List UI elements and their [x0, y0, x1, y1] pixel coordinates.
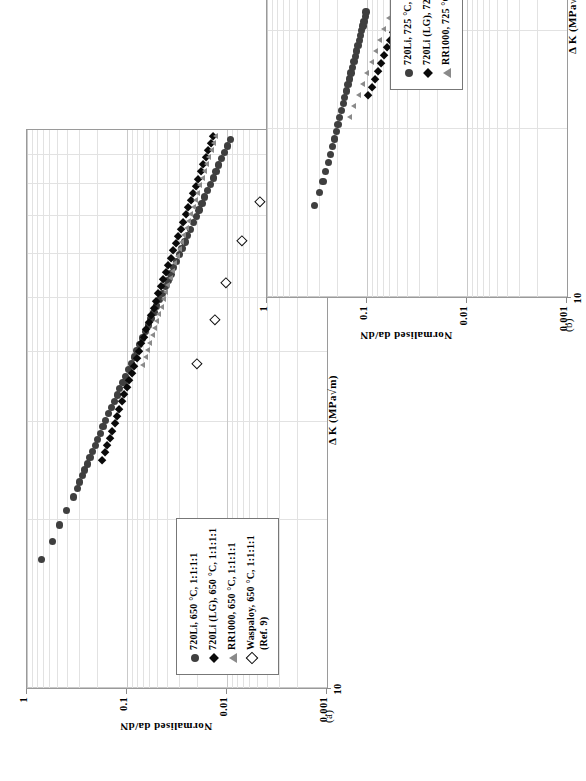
legend-item-label: 720Li, 725 °C, 1:1:1:1 [403, 0, 414, 65]
grid-line-horizontal [127, 130, 128, 688]
legend-item: 720Li, 650 °C, 1:1:1:1 [189, 528, 201, 666]
grid-line-horizontal [489, 0, 490, 297]
grid-line-horizontal [137, 130, 138, 688]
data-point [373, 48, 378, 54]
data-point [191, 358, 203, 370]
grid-line-horizontal [49, 130, 50, 688]
grid-line-horizontal [157, 130, 158, 688]
legend-item-text: 720Li, 725 °C, 1:1:1:1 [403, 0, 414, 65]
legend-item-label: RR1000, 650 °C, 1:1:1:1 [227, 542, 238, 650]
legend-triangle-icon [441, 65, 453, 81]
grid-line-horizontal [283, 0, 284, 297]
data-point [215, 161, 222, 168]
data-point [333, 128, 340, 135]
data-point [76, 478, 83, 485]
data-point [70, 493, 77, 500]
y-axis-tick-mark [366, 298, 367, 303]
data-point [145, 347, 150, 353]
data-point [336, 114, 343, 121]
legend-item-text: Waspaloy, 650 °C, 1:1:1:1(Ref. 9) [246, 535, 269, 650]
data-point [380, 51, 388, 59]
data-point [63, 507, 70, 514]
data-point [38, 556, 45, 563]
legend-marker-shape [246, 652, 259, 665]
data-point [322, 168, 329, 175]
data-point [170, 268, 175, 274]
data-point [207, 181, 214, 188]
data-point [143, 354, 148, 360]
data-point [201, 193, 208, 200]
legend-marker-shape [405, 69, 413, 77]
data-point [49, 538, 56, 545]
chart-b-legend: 720Li, 725 °C, 1:1:1:1720Li (LG), 725 °C… [390, 0, 463, 90]
grid-line-horizontal [472, 0, 473, 297]
data-point [364, 70, 369, 76]
data-point [338, 107, 345, 114]
grid-line-horizontal [167, 130, 168, 688]
chart-b-x-axis-title: Δ K (MPa√m) [566, 0, 578, 298]
y-axis-tick-mark [26, 689, 27, 694]
data-point [311, 202, 318, 209]
grid-line-horizontal [337, 0, 338, 297]
grid-line-horizontal [267, 0, 268, 297]
legend-circle-icon [189, 650, 201, 666]
data-point [343, 87, 350, 94]
grid-line-horizontal [57, 130, 58, 688]
data-point [198, 200, 205, 207]
grid-line-vertical [27, 687, 327, 688]
grid-line-horizontal [467, 0, 468, 297]
data-point [211, 140, 216, 146]
legend-circle-icon [403, 65, 415, 81]
chart-b-panel-label: (b) [562, 318, 574, 332]
legend-marker-shape [423, 68, 433, 78]
data-point [168, 275, 173, 281]
data-point [184, 225, 189, 231]
data-point [186, 218, 191, 224]
chart-b-container: 10.10.010.00110100 Δ K (MPa√m) Normalise… [240, 0, 586, 390]
data-point [188, 211, 193, 217]
data-point [329, 143, 336, 150]
data-point [213, 133, 218, 139]
data-point [195, 190, 200, 196]
data-point [218, 155, 225, 162]
data-point [97, 430, 104, 437]
y-axis-tick-mark [326, 689, 327, 694]
legend-item: 720Li (LG), 650 °C, 1:1:1:1 [208, 528, 220, 666]
grid-line-horizontal [372, 0, 373, 297]
data-point [209, 314, 221, 326]
data-point [102, 417, 109, 424]
grid-line-horizontal [297, 0, 298, 297]
grid-line-horizontal [149, 130, 150, 688]
grid-line-vertical [267, 296, 567, 297]
data-point [316, 189, 323, 196]
data-point [179, 239, 184, 245]
data-point [204, 161, 209, 167]
data-point [377, 37, 382, 43]
data-point [89, 448, 96, 455]
data-point [220, 277, 232, 289]
legend-triangle-icon [227, 650, 239, 666]
grid-line-horizontal [132, 130, 133, 688]
grid-line-horizontal [27, 130, 28, 688]
data-point [367, 83, 375, 91]
data-point [56, 521, 63, 528]
data-point [202, 168, 207, 174]
grid-line-horizontal [477, 0, 478, 297]
legend-item-label: Waspaloy, 650 °C, 1:1:1:1 [246, 535, 257, 650]
chart-a-legend: 720Li, 650 °C, 1:1:1:1720Li (LG), 650 °C… [176, 518, 279, 675]
legend-item-sublabel: (Ref. 9) [259, 535, 270, 650]
data-point [209, 147, 214, 153]
data-point [334, 121, 341, 128]
data-point [351, 103, 356, 109]
data-point [369, 59, 374, 65]
data-point [152, 325, 157, 331]
legend-item-label: RR1000, 725 °C, 1:1:1:1 [441, 0, 452, 65]
data-point [360, 81, 365, 87]
legend-marker-shape [191, 654, 199, 662]
grid-line-vertical [27, 421, 327, 422]
data-point [224, 142, 231, 149]
grid-line-horizontal [143, 130, 144, 688]
legend-item: Waspaloy, 650 °C, 1:1:1:1(Ref. 9) [246, 528, 269, 666]
y-axis-tick-mark [566, 298, 567, 303]
data-point [197, 183, 202, 189]
